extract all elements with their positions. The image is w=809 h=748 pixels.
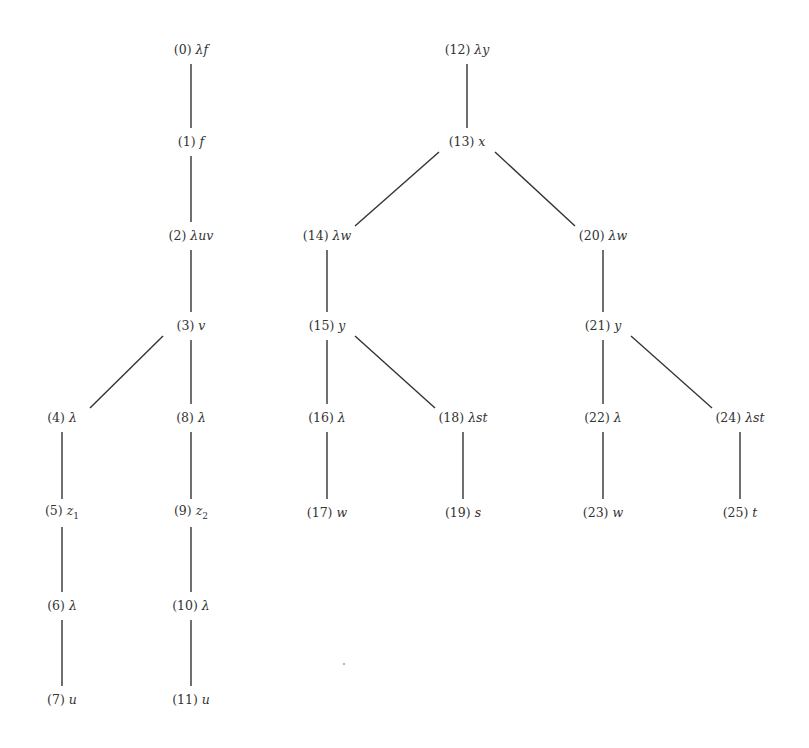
node-term: λ <box>69 410 77 425</box>
node-index: (24) <box>715 410 741 425</box>
node-term-text: λw <box>333 228 352 243</box>
tree-node-13: (13)x <box>449 136 486 149</box>
node-term-text: t <box>752 505 757 520</box>
tree-node-12: (12)λy <box>445 44 490 57</box>
node-term-text: u <box>202 692 210 707</box>
node-term: w <box>612 505 623 520</box>
tree-node-2: (2)λuv <box>169 230 214 243</box>
node-term-subscript: 1 <box>73 511 79 521</box>
node-index: (15) <box>309 318 335 333</box>
tree-node-24: (24)λst <box>715 412 764 425</box>
tree-edge-3-4 <box>90 336 163 408</box>
tree-node-11: (11)u <box>172 694 210 707</box>
tree-node-25: (25)t <box>723 507 758 520</box>
node-term: λw <box>333 228 352 243</box>
node-term-text: f <box>200 134 205 149</box>
tree-node-16: (16)λ <box>308 412 346 425</box>
tree-node-0: (0)λf <box>174 44 208 57</box>
node-term-text: s <box>475 505 481 520</box>
node-term: λ <box>69 598 77 613</box>
tree-node-5: (5)z1 <box>45 505 79 521</box>
node-term: λst <box>468 410 487 425</box>
node-index: (12) <box>445 42 471 57</box>
node-term: z2 <box>196 503 208 518</box>
tree-edges <box>0 0 809 748</box>
tree-node-14: (14)λw <box>303 230 351 243</box>
node-term-text: w <box>336 505 347 520</box>
node-term-text: λy <box>474 42 489 57</box>
node-term: u <box>69 692 77 707</box>
node-term-text: u <box>69 692 77 707</box>
stray-dot <box>343 663 345 665</box>
node-index: (5) <box>45 503 63 518</box>
node-term-text: w <box>612 505 623 520</box>
node-term-text: λ <box>69 598 77 613</box>
node-term-text: v <box>198 318 205 333</box>
node-index: (19) <box>445 505 471 520</box>
node-term-text: λ <box>202 598 210 613</box>
node-term: x <box>478 134 485 149</box>
node-term: λ <box>614 410 622 425</box>
node-term-subscript: 2 <box>202 511 208 521</box>
node-index: (0) <box>174 42 192 57</box>
node-index: (21) <box>585 318 611 333</box>
tree-node-19: (19)s <box>445 507 481 520</box>
node-index: (14) <box>303 228 329 243</box>
node-term-text: y <box>338 318 345 333</box>
node-term: λuv <box>190 228 213 243</box>
node-term-text: λ <box>69 410 77 425</box>
node-index: (22) <box>584 410 610 425</box>
node-index: (16) <box>308 410 334 425</box>
tree-node-23: (23)w <box>583 507 623 520</box>
node-index: (23) <box>583 505 609 520</box>
tree-node-18: (18)λst <box>438 412 487 425</box>
node-term: λst <box>745 410 764 425</box>
tree-node-20: (20)λw <box>579 230 627 243</box>
tree-node-9: (9)z2 <box>174 505 208 521</box>
node-term-text: λf <box>196 42 209 57</box>
tree-node-4: (4)λ <box>47 412 77 425</box>
tree-node-21: (21)y <box>585 320 622 333</box>
tree-node-3: (3)v <box>177 320 206 333</box>
node-term: f <box>200 134 205 149</box>
node-term-text: λ <box>338 410 346 425</box>
node-term: λy <box>474 42 489 57</box>
node-index: (11) <box>172 692 198 707</box>
node-index: (10) <box>172 598 198 613</box>
tree-node-8: (8)λ <box>176 412 206 425</box>
node-term: λ <box>198 410 206 425</box>
node-index: (2) <box>169 228 187 243</box>
node-term: z1 <box>67 503 79 518</box>
node-index: (18) <box>438 410 464 425</box>
node-term-text: y <box>614 318 621 333</box>
node-term-text: λst <box>745 410 764 425</box>
node-term: y <box>338 318 345 333</box>
node-index: (3) <box>177 318 195 333</box>
node-term: u <box>202 692 210 707</box>
node-term: v <box>198 318 205 333</box>
tree-edge-13-14 <box>355 152 439 226</box>
node-index: (1) <box>178 134 196 149</box>
tree-node-15: (15)y <box>309 320 346 333</box>
tree-edge-13-20 <box>495 152 575 226</box>
node-index: (7) <box>47 692 65 707</box>
node-term: y <box>614 318 621 333</box>
node-term-text: λuv <box>190 228 213 243</box>
node-index: (20) <box>579 228 605 243</box>
node-term: λ <box>338 410 346 425</box>
node-index: (4) <box>47 410 65 425</box>
node-index: (13) <box>449 134 475 149</box>
tree-edge-15-18 <box>355 336 435 408</box>
node-term-text: λ <box>614 410 622 425</box>
node-term: λ <box>202 598 210 613</box>
tree-node-22: (22)λ <box>584 412 622 425</box>
node-term: w <box>336 505 347 520</box>
node-index: (6) <box>47 598 65 613</box>
node-term: λw <box>609 228 628 243</box>
tree-node-17: (17)w <box>307 507 347 520</box>
tree-node-1: (1)f <box>178 136 204 149</box>
tree-node-10: (10)λ <box>172 600 210 613</box>
node-index: (17) <box>307 505 333 520</box>
node-term-text: λw <box>609 228 628 243</box>
node-term: t <box>752 505 757 520</box>
